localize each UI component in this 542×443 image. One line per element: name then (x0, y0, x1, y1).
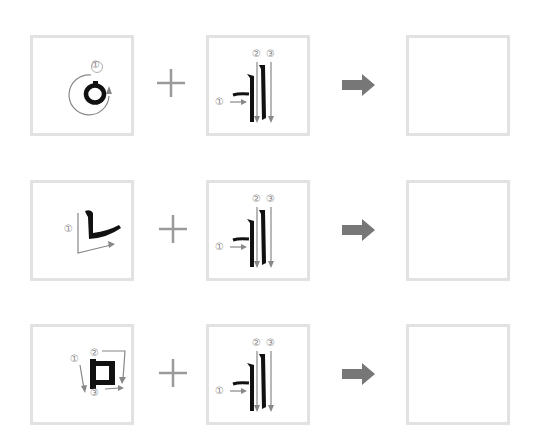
stroke-number: ② (252, 193, 261, 204)
consonant-box-nieun: ① (30, 180, 134, 281)
stroke-number: ① (91, 59, 100, 71)
mieum-stroke-guide-icon (33, 327, 131, 422)
answer-box-2[interactable] (406, 180, 510, 281)
plus-icon (157, 357, 189, 389)
stroke-number: ① (64, 223, 73, 234)
right-arrow-icon (342, 363, 376, 385)
stroke-number: ③ (266, 48, 275, 59)
ieung-stroke-guide-icon (33, 38, 131, 133)
stroke-number: ③ (266, 193, 275, 204)
stroke-number: ② (252, 48, 261, 59)
stroke-number: ① (215, 385, 224, 396)
plus-icon (155, 67, 187, 99)
stroke-number: ① (215, 241, 224, 252)
consonant-box-ieung: ① (30, 35, 134, 136)
answer-box-1[interactable] (406, 35, 510, 136)
vowel-box-yae: ① ② ③ (206, 324, 310, 425)
stroke-number: ① (215, 96, 224, 107)
right-arrow-icon (342, 219, 376, 241)
nieun-stroke-guide-icon (33, 183, 131, 278)
right-arrow-icon (342, 74, 376, 96)
row-3: ① ② ③ ① ② ③ (0, 289, 542, 399)
answer-box-3[interactable] (406, 324, 510, 425)
stroke-number: ③ (90, 387, 99, 398)
vowel-box-yae: ① ② ③ (206, 35, 310, 136)
stroke-number: ② (252, 337, 261, 348)
row-2: ① ① ② ③ (0, 145, 542, 255)
vowel-box-yae: ① ② ③ (206, 180, 310, 281)
plus-icon (157, 213, 189, 245)
consonant-box-mieum: ① ② ③ (30, 324, 134, 425)
stroke-number: ③ (266, 337, 275, 348)
stroke-number: ② (90, 347, 99, 358)
row-1: ① ① ② ③ (0, 0, 542, 110)
stroke-number: ① (70, 353, 79, 364)
